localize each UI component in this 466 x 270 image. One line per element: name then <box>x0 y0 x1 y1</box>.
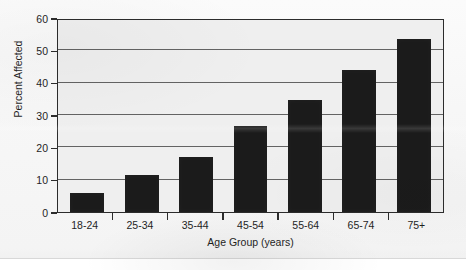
x-axis-tick-label: 18-24 <box>57 219 112 231</box>
y-axis-tick-label: 0 <box>42 208 51 219</box>
bar[interactable] <box>125 175 159 212</box>
y-axis-tick-label: 10 <box>36 175 51 186</box>
x-axis-tick-mark <box>112 213 113 220</box>
y-axis-tick-label: 20 <box>36 143 51 154</box>
x-axis-tick-label: 65-74 <box>333 219 388 231</box>
x-axis-tick <box>168 213 223 220</box>
x-axis-tick-mark <box>222 213 223 220</box>
x-axis-tick <box>333 213 388 220</box>
bar-slot <box>223 20 277 212</box>
bar-slot <box>387 20 441 212</box>
bar-slot <box>169 20 223 212</box>
x-axis-tick-label: 45-54 <box>223 219 278 231</box>
bar-slot <box>60 20 114 212</box>
y-axis-tick-label: 30 <box>36 111 51 122</box>
y-axis: 0102030405060 <box>0 19 57 213</box>
y-axis-tick-label: 60 <box>36 14 51 25</box>
bar[interactable] <box>234 126 268 212</box>
y-axis-tick-label: 50 <box>36 46 51 57</box>
x-axis-tick-label: 55-64 <box>278 219 333 231</box>
x-axis-tick-mark <box>388 213 389 220</box>
plot-area <box>57 19 444 213</box>
x-axis-tick-mark <box>277 213 278 220</box>
x-axis-ticks <box>57 213 444 220</box>
bar-slot <box>114 20 168 212</box>
bar-slot <box>278 20 332 212</box>
figure-page: 0102030405060 Percent Affected 18-2425-3… <box>0 0 466 270</box>
x-axis-tick-label: 25-34 <box>112 219 167 231</box>
x-axis-tick <box>57 213 112 220</box>
x-axis-tick <box>278 213 333 220</box>
x-axis-title: Age Group (years) <box>57 236 444 248</box>
x-axis-tick-mark <box>167 213 168 220</box>
bar[interactable] <box>288 100 322 212</box>
x-axis-tick-label: 35-44 <box>168 219 223 231</box>
bars-container <box>58 20 443 212</box>
bar[interactable] <box>342 70 376 212</box>
x-axis-tick <box>389 213 444 220</box>
bar[interactable] <box>397 39 431 212</box>
bar-slot <box>332 20 386 212</box>
bar[interactable] <box>70 193 104 212</box>
x-axis-tick-labels: 18-2425-3435-4445-5455-6465-7475+ <box>57 219 444 231</box>
x-axis-tick <box>223 213 278 220</box>
x-axis-tick <box>112 213 167 220</box>
bar[interactable] <box>179 157 213 212</box>
y-axis-title: Percent Affected <box>12 14 24 144</box>
x-axis-tick-label: 75+ <box>389 219 444 231</box>
y-axis-tick-label: 40 <box>36 78 51 89</box>
x-axis-tick-mark <box>333 213 334 220</box>
caption-strip <box>0 258 466 270</box>
